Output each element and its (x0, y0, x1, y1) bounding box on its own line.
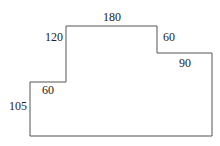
label-left-height: 105 (9, 99, 27, 113)
label-top-width: 180 (103, 10, 121, 24)
label-upper-left-height: 120 (45, 30, 63, 44)
label-left-step-width: 60 (42, 83, 54, 97)
label-right-step-width: 90 (179, 56, 191, 70)
label-right-step-height: 60 (163, 30, 175, 44)
stepped-shape-diagram: 180 120 60 90 60 105 (0, 0, 220, 146)
